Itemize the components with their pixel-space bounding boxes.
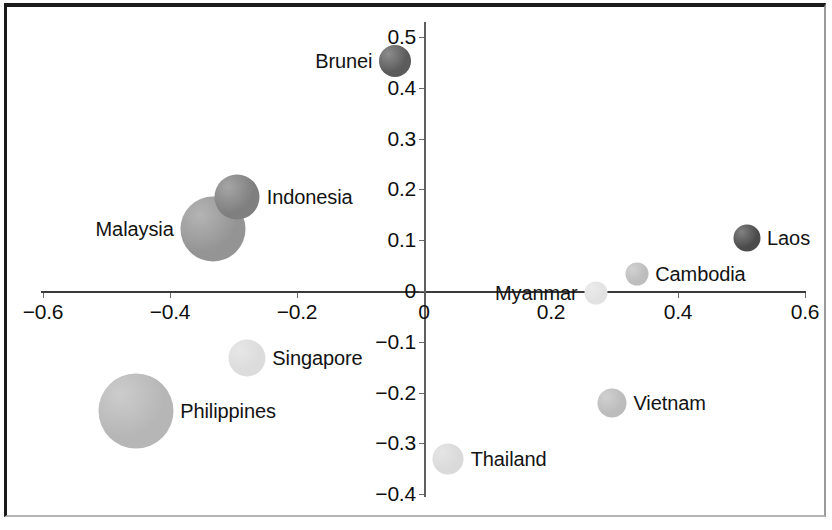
plot-area: −0.6−0.4−0.200.20.40.60.50.40.30.20.10−0…	[0, 0, 832, 530]
data-point-label-laos: Laos	[767, 227, 810, 250]
data-point-label-cambodia: Cambodia	[655, 263, 745, 286]
data-point-cambodia[interactable]	[625, 263, 648, 286]
data-point-label-philippines: Philippines	[180, 400, 276, 423]
y-axis-tick-label: −0.1	[375, 330, 416, 354]
data-point-label-singapore: Singapore	[272, 346, 362, 369]
y-axis-tick-label: −0.4	[375, 482, 416, 506]
y-axis-tick-label: 0.1	[387, 228, 416, 252]
y-axis-tick	[419, 37, 424, 38]
data-point-label-malaysia: Malaysia	[96, 217, 174, 240]
data-point-indonesia[interactable]	[215, 175, 260, 220]
y-axis-tick-label: 0.2	[387, 177, 416, 201]
bubble-chart-figure: −0.6−0.4−0.200.20.40.60.50.40.30.20.10−0…	[0, 0, 832, 530]
x-axis-tick-label: −0.6	[23, 300, 64, 324]
y-axis-tick	[419, 443, 424, 444]
y-axis-tick	[419, 494, 424, 495]
data-point-label-myanmar: Myanmar	[495, 282, 578, 305]
x-axis-tick	[678, 293, 679, 298]
y-axis-tick	[419, 393, 424, 394]
data-point-laos[interactable]	[733, 225, 760, 252]
x-axis-tick-label: −0.4	[150, 300, 191, 324]
x-axis-tick	[297, 293, 298, 298]
y-axis-line	[424, 22, 426, 497]
data-point-label-vietnam: Vietnam	[633, 391, 705, 414]
x-axis-tick	[805, 293, 806, 298]
x-axis-tick-label: 0.6	[791, 300, 820, 324]
y-axis-tick	[419, 342, 424, 343]
data-point-label-indonesia: Indonesia	[267, 186, 353, 209]
y-axis-tick-label: −0.3	[375, 431, 416, 455]
y-axis-tick-label: 0.3	[387, 127, 416, 151]
data-point-brunei[interactable]	[379, 45, 411, 77]
y-axis-tick	[419, 88, 424, 89]
x-axis-tick-label: −0.2	[277, 300, 318, 324]
x-axis-tick-label: 0	[418, 300, 429, 324]
data-point-thailand[interactable]	[433, 444, 464, 475]
y-axis-tick	[419, 189, 424, 190]
data-point-philippines[interactable]	[98, 374, 173, 449]
data-point-myanmar[interactable]	[585, 282, 608, 305]
x-axis-tick	[170, 293, 171, 298]
y-axis-tick-label: 0.4	[387, 76, 416, 100]
y-axis-tick	[419, 240, 424, 241]
data-point-label-thailand: Thailand	[471, 448, 547, 471]
x-axis-tick	[43, 293, 44, 298]
y-axis-tick-label: −0.2	[375, 381, 416, 405]
data-point-singapore[interactable]	[228, 339, 265, 376]
data-point-label-brunei: Brunei	[315, 50, 372, 73]
y-axis-tick	[419, 139, 424, 140]
x-axis-tick-label: 0.4	[664, 300, 693, 324]
y-axis-tick-label: 0	[405, 279, 416, 303]
data-point-vietnam[interactable]	[597, 388, 626, 417]
y-axis-tick	[419, 291, 424, 292]
